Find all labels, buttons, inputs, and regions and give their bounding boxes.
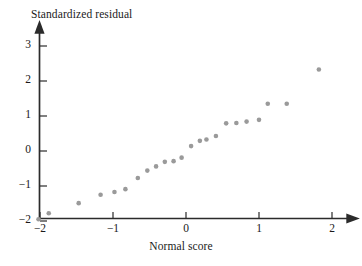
x-tick-label: 0 (175, 222, 197, 234)
data-point (36, 217, 41, 222)
data-point (284, 101, 289, 106)
data-point (163, 160, 168, 165)
data-point (317, 67, 322, 72)
normal-probability-plot-figure: Standardized residual −2−1012 −2−10123 N… (0, 0, 362, 266)
y-axis-ticks (40, 46, 47, 221)
x-axis-title: Normal score (0, 240, 362, 252)
data-point (179, 155, 184, 160)
y-tick-label: −1 (13, 178, 31, 190)
axes-group (39, 32, 348, 219)
y-tick-label: 0 (13, 143, 31, 155)
x-tick-label: 2 (321, 222, 343, 234)
x-tick-label: 1 (248, 222, 270, 234)
data-point (171, 159, 176, 164)
data-point (234, 121, 239, 126)
data-point (123, 187, 128, 192)
data-point (198, 139, 203, 144)
data-point (224, 121, 229, 126)
scatter-points (36, 67, 321, 221)
y-tick-label: 2 (13, 73, 31, 85)
data-point (145, 168, 150, 173)
data-point (214, 134, 219, 139)
data-point (136, 176, 141, 181)
data-point (204, 137, 209, 142)
y-tick-label: 3 (13, 38, 31, 50)
y-tick-label: 1 (13, 108, 31, 120)
data-point (189, 144, 194, 149)
data-point (112, 190, 117, 195)
data-point (244, 119, 249, 124)
data-point (257, 118, 262, 123)
x-tick-label: −1 (102, 222, 124, 234)
y-tick-label: −2 (13, 213, 31, 225)
data-point (265, 101, 270, 106)
x-tick-label: −2 (29, 222, 51, 234)
data-point (154, 164, 159, 169)
data-point (76, 201, 81, 206)
data-point (98, 192, 103, 197)
data-point (46, 211, 51, 216)
